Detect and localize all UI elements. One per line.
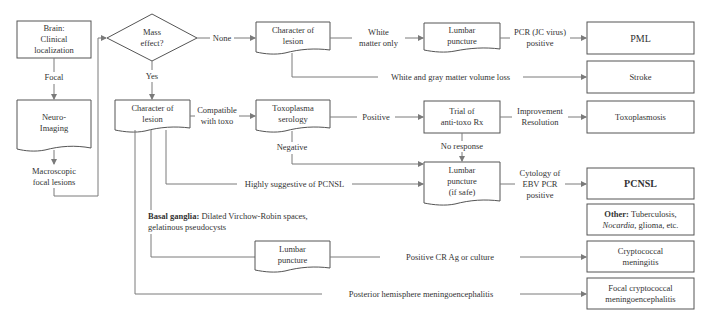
- other-bold: Other:: [604, 209, 629, 219]
- basal-ganglia-bold: Basal ganglia:: [148, 211, 199, 221]
- edge-label-posterior-hemisphere: Posterior hemisphere meningoencephalitis: [322, 289, 520, 300]
- other-italic: Nocardia: [603, 220, 635, 230]
- basal-ganglia-rest: Dilated Virchow-Robin spaces,: [199, 211, 307, 221]
- cryptococcal-label: Cryptococcal meningitis: [587, 241, 694, 272]
- edge-label-positive: Positive: [357, 112, 395, 123]
- toxo-serology-label: Toxoplasma serology: [256, 100, 330, 128]
- lumbar-bottom-label: Lumbar puncture: [255, 241, 330, 268]
- lumbar-top-label: Lumbar puncture: [424, 23, 500, 49]
- pml-label: PML: [587, 22, 694, 54]
- other-rest: Tuberculosis,: [629, 209, 677, 219]
- other-tail: , glioma, etc.: [634, 220, 678, 230]
- edge-label-none: None: [210, 33, 234, 44]
- pcnsl-label: PCNSL: [587, 168, 694, 199]
- basal-ganglia-note: Basal ganglia: Dilated Virchow-Robin spa…: [148, 211, 368, 233]
- edge-label-highly-suggestive: Highly suggestive of PCNSL: [237, 179, 352, 190]
- edge-label-yes: Yes: [140, 71, 164, 82]
- macroscopic-node-label: Macroscopic focal lesions: [10, 165, 98, 189]
- edge-label-compatible-toxo: Compatible with toxo: [195, 105, 239, 127]
- other-line1: Other: Tuberculosis,: [604, 209, 676, 220]
- mass-effect-node-label: Mass effect?: [122, 22, 182, 54]
- edge-label-focal: Focal: [40, 72, 68, 83]
- edge-label-negative: Negative: [272, 142, 312, 153]
- char-lesion-mid-label: Character of lesion: [115, 100, 190, 128]
- toxoplasmosis-label: Toxoplasmosis: [587, 101, 694, 133]
- edge-label-cytology-ebv: Cytology of EBV PCR positive: [515, 168, 565, 201]
- other-label: Other: Tuberculosis, Nocardia, glioma, e…: [587, 204, 694, 235]
- trial-antitoxo-label: Trial of anti-toxo Rx: [424, 101, 500, 133]
- basal-ganglia-line2: gelatinous pseudocysts: [148, 222, 368, 233]
- basal-ganglia-line1: Basal ganglia: Dilated Virchow-Robin spa…: [148, 211, 368, 222]
- edge-label-white-matter-only: White matter only: [352, 27, 405, 49]
- lumbar-safe-label: Lumbar puncture (if safe): [424, 162, 500, 200]
- brain-node-label: Brain: Clinical localization: [17, 21, 91, 58]
- neuro-imaging-node-label: Neuro- Imaging: [17, 100, 91, 146]
- edge-label-white-gray-loss: White and gray matter volume loss: [378, 72, 523, 83]
- other-line2: Nocardia, glioma, etc.: [603, 220, 679, 231]
- stroke-label: Stroke: [587, 61, 694, 93]
- edge-label-improvement: Improvement Resolution: [512, 106, 568, 128]
- char-lesion-top-label: Character of lesion: [256, 22, 330, 50]
- edge-label-pcr-jc: PCR (JC virus) positive: [510, 27, 570, 49]
- focal-crypto-label: Focal cryptococcal meningoencephalitis: [587, 278, 694, 309]
- edge-label-no-response: No response: [436, 141, 488, 152]
- edge-label-positive-crag: Positive CR Ag or culture: [380, 252, 520, 263]
